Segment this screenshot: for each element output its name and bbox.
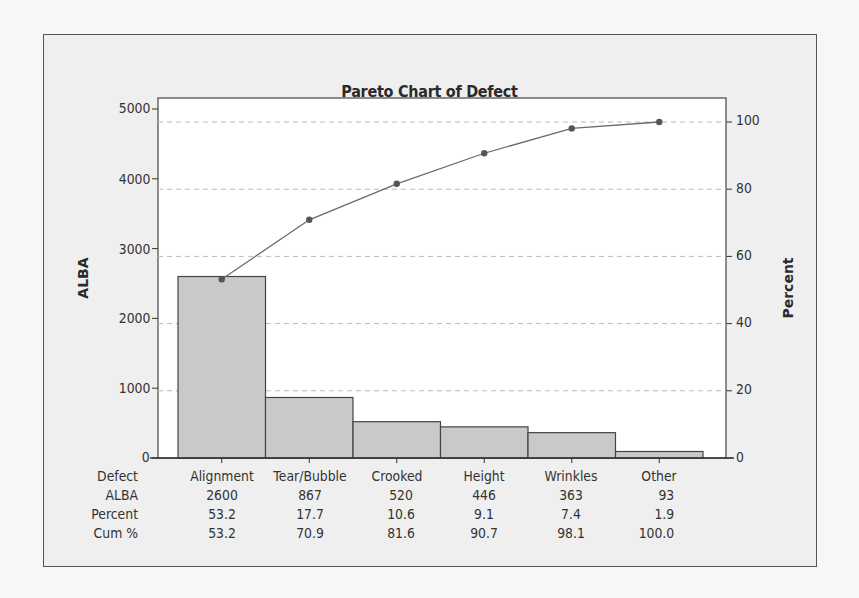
cumulative-marker xyxy=(394,181,400,187)
percent-value: 9.1 xyxy=(444,506,525,522)
bar-other xyxy=(616,452,704,458)
y-tick-2000: 2000 xyxy=(118,310,150,326)
percent-value: 1.9 xyxy=(610,506,674,522)
cum-percent-value: 100.0 xyxy=(610,525,674,541)
cumulative-marker xyxy=(306,217,312,223)
bar-tear-bubble xyxy=(266,397,354,458)
category-label: Tear/Bubble xyxy=(270,468,351,484)
category-label: Height xyxy=(444,468,525,484)
row-label-alba: ALBA xyxy=(46,487,138,503)
y2-tick-60: 60 xyxy=(736,247,752,263)
y-tick-4000: 4000 xyxy=(118,171,150,187)
y-tick-3000: 3000 xyxy=(118,241,150,257)
percent-value: 7.4 xyxy=(531,506,612,522)
cum-percent-value: 81.6 xyxy=(361,525,442,541)
bar-crooked xyxy=(353,422,441,458)
row-label-defect: Defect xyxy=(46,468,138,484)
cum-percent-value: 90.7 xyxy=(444,525,525,541)
cumulative-marker xyxy=(569,125,575,131)
percent-value: 10.6 xyxy=(361,506,442,522)
y2-tick-20: 20 xyxy=(736,381,752,397)
percent-value: 53.2 xyxy=(182,506,263,522)
bar-wrinkles xyxy=(528,433,616,458)
percent-value: 17.7 xyxy=(270,506,351,522)
alba-value: 520 xyxy=(361,487,442,503)
alba-value: 2600 xyxy=(182,487,263,503)
y2-axis-label: Percent xyxy=(780,257,796,318)
y2-tick-100: 100 xyxy=(736,112,760,128)
category-label: Other xyxy=(619,468,700,484)
bar-height xyxy=(441,427,529,458)
y-tick-1000: 1000 xyxy=(118,380,150,396)
y2-tick-80: 80 xyxy=(736,180,752,196)
alba-value: 446 xyxy=(444,487,525,503)
y-tick-5000: 5000 xyxy=(118,100,150,116)
category-label: Crooked xyxy=(357,468,438,484)
cum-percent-value: 53.2 xyxy=(182,525,263,541)
cumulative-marker xyxy=(481,150,487,156)
alba-value: 93 xyxy=(610,487,674,503)
row-label-percent: Percent xyxy=(46,506,138,522)
category-label: Alignment xyxy=(182,468,263,484)
cumulative-marker xyxy=(219,276,225,282)
y2-tick-0: 0 xyxy=(736,449,744,465)
cum-percent-value: 70.9 xyxy=(270,525,351,541)
y-axis-label: ALBA xyxy=(75,257,91,298)
alba-value: 363 xyxy=(531,487,612,503)
alba-value: 867 xyxy=(270,487,351,503)
y-tick-0: 0 xyxy=(142,449,150,465)
bar-alignment xyxy=(178,277,266,458)
row-label-cum-percent: Cum % xyxy=(46,525,138,541)
cum-percent-value: 98.1 xyxy=(531,525,612,541)
category-label: Wrinkles xyxy=(531,468,612,484)
y2-tick-40: 40 xyxy=(736,314,752,330)
cumulative-marker xyxy=(656,119,662,125)
